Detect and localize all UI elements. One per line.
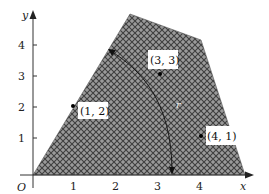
svg-text:(4, 1): (4, 1) <box>207 130 237 143</box>
y-axis-arrow-icon <box>30 10 37 19</box>
point-3-3 <box>158 72 162 76</box>
point-4-1 <box>199 134 203 138</box>
y-tick-label-3: 3 <box>18 70 25 83</box>
y-tick-label-2: 2 <box>18 101 25 114</box>
point-label-4-1: (4, 1) <box>206 126 237 145</box>
x-axis-label: x <box>240 180 247 193</box>
y-tick-label-4: 4 <box>18 39 25 52</box>
svg-text:(1, 2): (1, 2) <box>80 105 110 118</box>
x-tick-label-2: 2 <box>112 180 119 193</box>
point-label-1-2: (1, 2) <box>78 102 110 119</box>
y-axis-label: y <box>21 9 29 22</box>
x-tick-label-1: 1 <box>70 180 77 193</box>
x-tick-label-4: 4 <box>196 180 203 193</box>
point-1-2 <box>71 104 75 108</box>
origin-label: O <box>17 181 26 194</box>
svg-text:(3, 3): (3, 3) <box>150 54 180 67</box>
shaded-region <box>33 14 245 175</box>
x-tick-label-3: 3 <box>154 180 161 193</box>
diagram-canvas: 1 2 3 4 x 1 2 3 4 y O r (1, 2) (3, 3) (4… <box>0 0 269 194</box>
y-ticks <box>33 45 37 138</box>
point-label-3-3: (3, 3) <box>148 50 180 69</box>
x-axis-arrow-icon <box>245 172 254 179</box>
y-tick-label-1: 1 <box>18 132 25 145</box>
